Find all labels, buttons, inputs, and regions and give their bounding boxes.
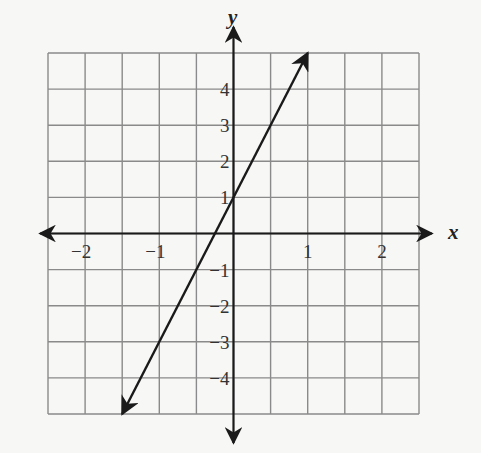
y-axis-label: y [225,5,238,29]
x-axis-label: x [447,220,459,244]
y-tick-label: 2 [220,151,230,172]
y-tick-label: 3 [220,115,230,136]
y-tick-label: −4 [209,368,230,389]
y-tick-label: −1 [209,260,229,281]
y-tick-label: −2 [209,296,229,317]
x-tick-label: 2 [377,241,387,262]
x-tick-label: −1 [145,241,165,262]
coordinate-plane: x y −2−1124321−1−2−3−4 [0,0,481,453]
y-tick-label: 4 [220,79,230,100]
y-tick-label: 1 [220,187,230,208]
x-tick-label: −2 [71,241,91,262]
x-tick-label: 1 [303,241,313,262]
y-tick-label: −3 [209,332,229,353]
